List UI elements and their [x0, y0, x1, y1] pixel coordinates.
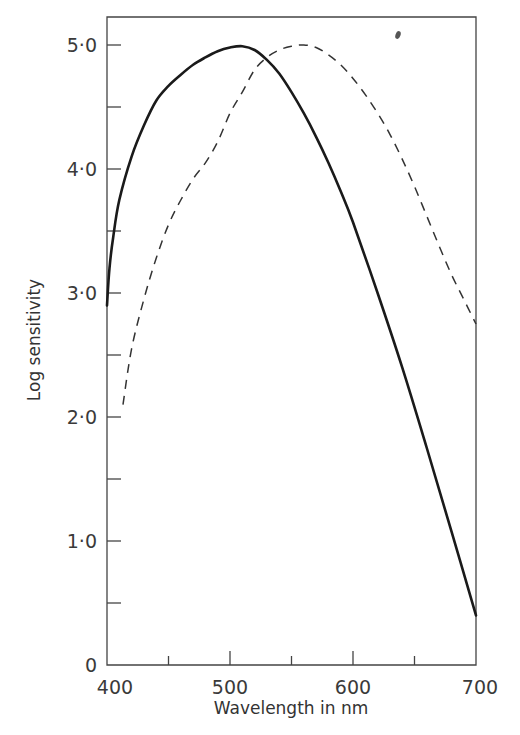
- axes-box: [107, 17, 476, 665]
- y-axis-title: Log sensitivity: [24, 279, 44, 401]
- y-tick-label: 1·0: [67, 530, 97, 552]
- x-tick-label: 400: [97, 676, 133, 698]
- y-tick-label: 3·0: [67, 282, 97, 304]
- plot-frame: [107, 17, 476, 665]
- x-tick-label: 500: [212, 676, 248, 698]
- y-tick-label: 2·0: [67, 406, 97, 428]
- y-tick-label: 4·0: [67, 158, 97, 180]
- x-axis-title: Wavelength in nm: [214, 698, 369, 718]
- y-tick-label: 5·0: [67, 34, 97, 56]
- scan-speck-mark: [394, 30, 401, 39]
- chart: 01·02·03·04·05·0 400500600700 Wavelength…: [0, 0, 520, 735]
- x-axis-ticks: 400500600700: [97, 651, 498, 698]
- dashed-curve: [123, 45, 476, 405]
- y-axis-ticks: 01·02·03·04·05·0: [67, 34, 121, 676]
- y-tick-label: 0: [85, 654, 97, 676]
- x-tick-label: 700: [462, 676, 498, 698]
- solid-curve: [107, 46, 476, 615]
- x-tick-label: 600: [335, 676, 371, 698]
